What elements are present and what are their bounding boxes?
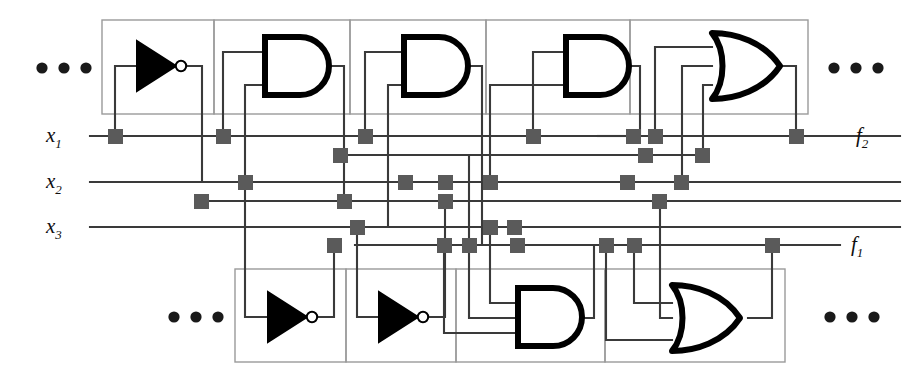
pad[interactable] — [438, 175, 453, 190]
pad[interactable] — [695, 148, 710, 163]
ellipsis-bottom-right — [824, 311, 879, 322]
pad[interactable] — [599, 238, 614, 253]
pad[interactable] — [333, 148, 348, 163]
pad[interactable] — [327, 238, 342, 253]
pad[interactable] — [437, 238, 452, 253]
pad[interactable] — [789, 129, 804, 144]
pad[interactable] — [620, 175, 635, 190]
pad[interactable] — [108, 129, 123, 144]
pad[interactable] — [674, 175, 689, 190]
pad[interactable] — [507, 220, 522, 235]
pad[interactable] — [626, 129, 641, 144]
ellipsis-top-left — [36, 62, 91, 73]
pad[interactable] — [238, 175, 253, 190]
pad[interactable] — [337, 194, 352, 209]
pad[interactable] — [216, 129, 231, 144]
pad[interactable] — [398, 175, 413, 190]
pad[interactable] — [652, 194, 667, 209]
pad[interactable] — [483, 175, 498, 190]
pad[interactable] — [526, 129, 541, 144]
ellipsis-bottom-left — [168, 311, 223, 322]
pad[interactable] — [462, 238, 477, 253]
pad[interactable] — [194, 194, 209, 209]
pad[interactable] — [358, 129, 373, 144]
pad[interactable] — [438, 194, 453, 209]
pad[interactable] — [627, 238, 642, 253]
circuit-figure: x1 x2 x3 f2 f1 — [0, 0, 909, 384]
pad[interactable] — [350, 220, 365, 235]
pad[interactable] — [483, 220, 498, 235]
pad[interactable] — [510, 238, 525, 253]
pad[interactable] — [765, 238, 780, 253]
pad[interactable] — [638, 148, 653, 163]
ellipsis-top-right — [828, 62, 883, 73]
circuit-svg: x1 x2 x3 f2 f1 — [0, 0, 909, 384]
pad[interactable] — [648, 129, 663, 144]
